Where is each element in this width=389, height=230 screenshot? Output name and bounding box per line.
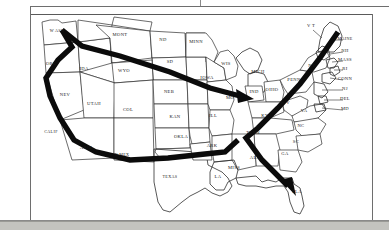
state-label-utah: UTAH	[87, 101, 101, 106]
state-label-sc: SC	[293, 139, 299, 144]
state-label-fla: FLA	[292, 189, 302, 194]
figure-page: W ASHOREIDAMONTNDSDWYONEVUTAHCOLNEBKANCA…	[0, 0, 389, 230]
state-label-nh: NH	[341, 48, 349, 53]
state-label-wv: W V	[280, 100, 290, 105]
state-label-ga: GA	[281, 151, 289, 156]
state-label-texas: TEXAS	[163, 174, 178, 179]
state-label-wyo: WYO	[118, 68, 130, 73]
state-label-nmex: N MEX	[115, 152, 130, 157]
state-label-okla: OKLA	[174, 134, 188, 139]
state-label-mo: MO	[226, 95, 234, 100]
state-label-nj: NJ	[342, 86, 348, 91]
state-label-penn: PENN	[287, 77, 301, 82]
state-label-ida: IDA	[79, 66, 89, 71]
state-label-ore: ORE	[46, 61, 56, 66]
state-label-col: COL	[123, 107, 133, 112]
state-label-miss: MISS	[228, 165, 240, 170]
state-label-vt: V T	[307, 23, 315, 28]
state-label-ohio: OHIO	[266, 87, 279, 92]
state-label-mont: MONT	[113, 32, 128, 37]
state-label-md: MD	[341, 106, 349, 111]
state-label-wash: W ASH	[50, 28, 65, 33]
state-label-iowa: IOWA	[200, 75, 214, 80]
state-label-ri: RI	[342, 66, 347, 71]
state-label-nc: NC	[297, 123, 304, 128]
state-label-nev: NEV	[60, 92, 71, 97]
state-label-tenn: TENN	[246, 130, 260, 135]
state-label-nd: ND	[159, 37, 167, 42]
state-label-calif: CALIF	[44, 129, 58, 134]
state-label-ky: KY	[261, 113, 269, 118]
state-label-mass: MASS	[338, 57, 352, 62]
us-map: W ASHOREIDAMONTNDSDWYONEVUTAHCOLNEBKANCA…	[0, 0, 389, 230]
state-label-ny: NY	[308, 63, 316, 68]
state-label-neb: NEB	[164, 89, 174, 94]
state-label-wis: WIS	[221, 61, 231, 66]
state-label-minn: MINN	[189, 39, 203, 44]
state-label-va: VA	[301, 108, 308, 113]
state-label-conn: CONN	[338, 76, 353, 81]
state-label-del: DEL	[340, 96, 350, 101]
state-label-la: LA	[215, 174, 222, 179]
state-label-mich: MICH	[251, 69, 265, 74]
state-label-sd: SD	[167, 59, 174, 64]
state-label-ala: ALA	[250, 155, 261, 160]
state-label-ill: ILL	[209, 113, 217, 118]
state-label-ariz: ARIZ	[80, 145, 92, 150]
state-label-ark: ARK	[207, 143, 218, 148]
state-label-ind: IND	[249, 89, 259, 94]
state-label-maine: MAINE	[337, 36, 352, 41]
state-label-kan: KAN	[169, 114, 180, 119]
